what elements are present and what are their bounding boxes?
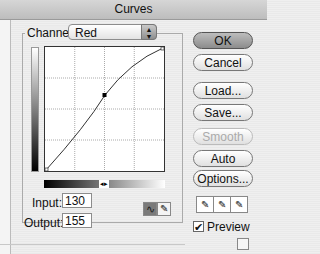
preview-label: Preview	[207, 220, 250, 234]
options-button[interactable]: Options...	[193, 170, 253, 187]
expand-view-icon[interactable]	[237, 238, 249, 250]
save-button[interactable]: Save...	[193, 104, 253, 121]
gradient-toggle-icon[interactable]: ◂▸	[99, 180, 109, 188]
curve-graph[interactable]	[44, 46, 165, 172]
output-gradient-bar	[31, 47, 39, 172]
curve-point-black[interactable]	[45, 168, 48, 171]
divider	[0, 244, 185, 245]
input-gradient-bar: ◂▸	[44, 180, 165, 188]
cancel-button[interactable]: Cancel	[193, 54, 253, 71]
white-eyedropper-icon[interactable]: ✎	[230, 196, 248, 213]
output-label: Output:	[24, 216, 63, 230]
input-field[interactable]: 130	[62, 193, 92, 208]
background-window-edge	[0, 20, 11, 254]
pencil-mode-icon[interactable]: ✎	[157, 202, 171, 216]
smooth-button[interactable]: Smooth	[193, 128, 253, 145]
output-field[interactable]: 155	[62, 213, 92, 228]
input-label: Input:	[32, 196, 62, 210]
window-title: Curves	[114, 2, 152, 16]
curve-point-white[interactable]	[161, 47, 164, 50]
auto-button[interactable]: Auto	[193, 150, 253, 167]
ok-button[interactable]: OK	[193, 32, 253, 49]
gray-eyedropper-icon[interactable]: ✎	[213, 196, 231, 213]
select-arrows-icon: ▲▼	[141, 24, 157, 40]
curve-point-selected[interactable]	[103, 93, 107, 97]
preview-checkbox[interactable]: ✔	[193, 221, 204, 232]
curve-mode-icon[interactable]: ∿	[143, 202, 157, 216]
curve-svg	[45, 47, 164, 171]
load-button[interactable]: Load...	[193, 82, 253, 99]
channel-value: Red	[75, 26, 97, 40]
channel-select[interactable]: Red ▲▼	[68, 24, 157, 40]
window-titlebar: Curves	[0, 0, 267, 20]
black-eyedropper-icon[interactable]: ✎	[196, 196, 214, 213]
